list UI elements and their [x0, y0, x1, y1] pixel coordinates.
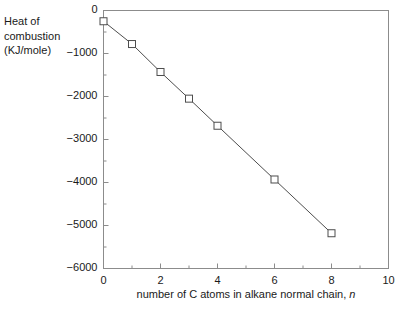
chart-figure: Heat of combustion (KJ/mole) number of C… — [0, 0, 406, 309]
data-point-marker — [186, 95, 193, 102]
data-point-marker — [328, 230, 335, 237]
data-point-marker — [271, 176, 278, 183]
plot-frame — [104, 11, 389, 269]
data-point-marker — [100, 18, 107, 25]
data-point-marker — [214, 122, 221, 129]
plot-area — [0, 0, 406, 309]
data-point-marker — [157, 68, 164, 75]
plot-frame-box — [104, 11, 389, 269]
data-point-marker — [129, 41, 136, 48]
axis-ticks — [104, 11, 389, 269]
data-series — [100, 18, 335, 237]
